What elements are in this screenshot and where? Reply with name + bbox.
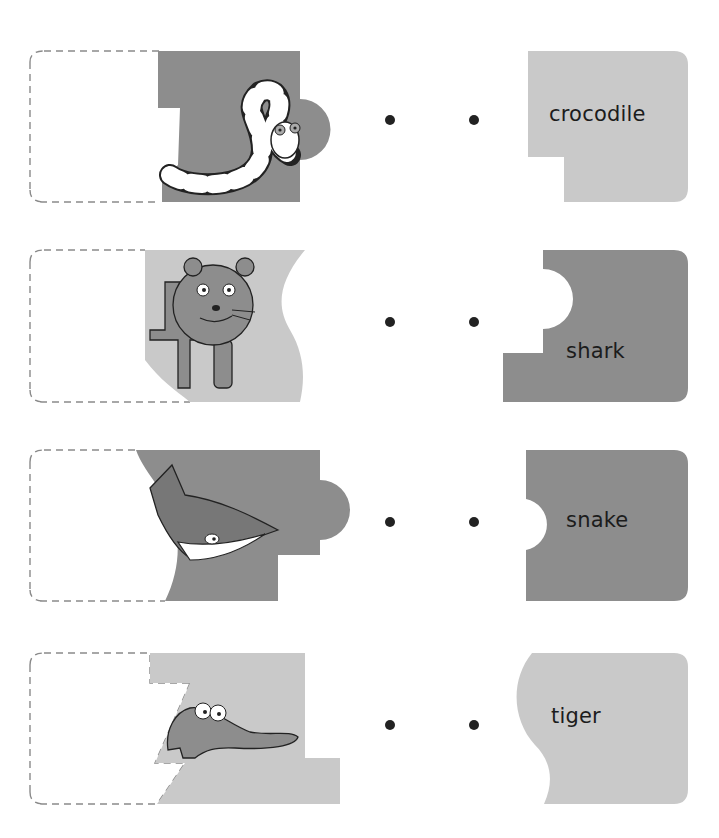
left-dot[interactable] bbox=[385, 317, 395, 327]
row-4-graphics bbox=[0, 640, 719, 810]
match-row-3: snake bbox=[0, 440, 719, 610]
left-dot[interactable] bbox=[385, 115, 395, 125]
right-dot[interactable] bbox=[469, 720, 479, 730]
match-row-4: tiger bbox=[0, 640, 719, 810]
right-dot[interactable] bbox=[469, 317, 479, 327]
picture-piece-tiger[interactable] bbox=[145, 250, 305, 402]
dashed-outline bbox=[30, 450, 165, 601]
word-label: shark bbox=[566, 339, 625, 363]
left-dot[interactable] bbox=[385, 517, 395, 527]
left-dot[interactable] bbox=[385, 720, 395, 730]
word-label: tiger bbox=[551, 704, 601, 728]
word-piece-shark[interactable] bbox=[503, 250, 688, 402]
picture-piece-crocodile[interactable] bbox=[150, 653, 340, 804]
picture-piece-snake[interactable] bbox=[158, 51, 331, 202]
right-dot[interactable] bbox=[469, 115, 479, 125]
word-piece-tiger[interactable] bbox=[517, 653, 688, 804]
match-row-1: crocodile bbox=[0, 40, 719, 210]
word-label: crocodile bbox=[549, 102, 646, 126]
match-row-2: shark bbox=[0, 240, 719, 410]
row-2-graphics bbox=[0, 240, 719, 410]
word-piece-crocodile[interactable] bbox=[528, 51, 688, 202]
dashed-outline bbox=[30, 51, 160, 202]
picture-piece-shark[interactable] bbox=[136, 450, 350, 601]
right-dot[interactable] bbox=[469, 517, 479, 527]
word-label: snake bbox=[566, 508, 628, 532]
